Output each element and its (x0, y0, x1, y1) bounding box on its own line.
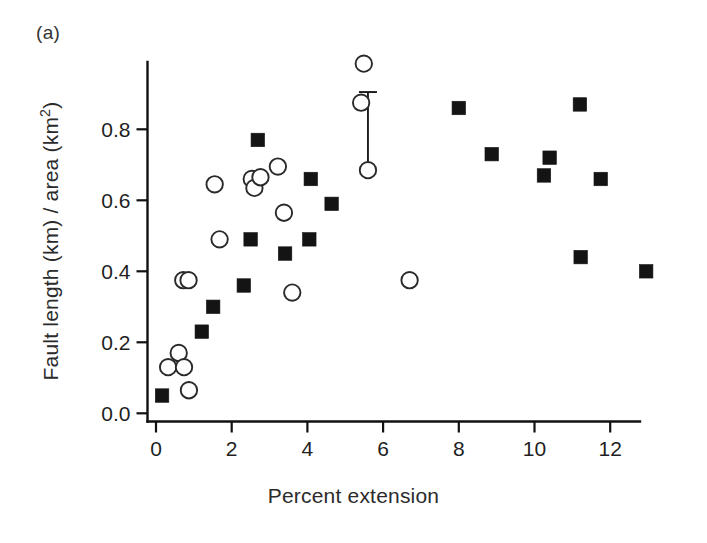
x-tick-label: 4 (302, 437, 314, 460)
data-point-square (543, 151, 557, 165)
data-point-circle (270, 158, 286, 174)
data-point-square (155, 389, 169, 403)
y-axis-title-main: Fault length (km) / area (km (39, 117, 62, 381)
x-tick-label: 12 (599, 437, 622, 460)
data-point-square (639, 265, 653, 279)
data-point-square (303, 233, 317, 247)
data-point-square (325, 197, 339, 211)
data-point-square (573, 98, 587, 112)
y-axis-title-superscript: 2 (37, 109, 53, 117)
figure-panel-a: (a) 0.00.20.40.60.8024681012 Percent ext… (0, 0, 707, 543)
data-point-square (452, 101, 466, 115)
data-point-circle (353, 94, 369, 110)
data-point-circle (356, 55, 372, 71)
x-tick-label: 8 (453, 437, 465, 460)
y-axis-title-tail: ) (39, 102, 62, 109)
x-tick-label: 10 (523, 437, 546, 460)
data-point-square (244, 233, 258, 247)
data-point-circle (180, 272, 196, 288)
y-tick-label: 0.4 (101, 260, 131, 283)
y-tick-label: 0.6 (101, 189, 130, 212)
y-tick-label: 0.2 (101, 331, 130, 354)
x-tick-label: 6 (377, 437, 389, 460)
scatter-plot: 0.00.20.40.60.8024681012 (0, 0, 707, 543)
data-point-square (485, 147, 499, 161)
y-axis-title: Fault length (km) / area (km2) (37, 41, 63, 441)
data-point-circle (401, 272, 417, 288)
data-point-square (574, 250, 588, 264)
data-point-square (537, 169, 551, 183)
y-tick-label: 0.0 (101, 402, 130, 425)
x-tick-label: 0 (150, 437, 162, 460)
data-point-circle (211, 231, 227, 247)
data-point-square (594, 172, 608, 186)
data-point-circle (181, 382, 197, 398)
data-point-circle (252, 169, 268, 185)
data-point-circle (160, 359, 176, 375)
data-point-square (195, 325, 209, 339)
x-tick-label: 2 (226, 437, 238, 460)
y-tick-label: 0.8 (101, 118, 130, 141)
data-point-square (278, 247, 292, 260)
data-point-square (237, 279, 251, 293)
x-axis-title: Percent extension (0, 484, 707, 508)
data-point-circle (176, 359, 192, 375)
data-point-circle (206, 176, 222, 192)
data-point-square (304, 172, 318, 186)
data-point-square (251, 133, 265, 147)
data-point-circle (284, 284, 300, 300)
data-point-square (206, 300, 220, 314)
data-point-circle (276, 205, 292, 221)
data-point-circle (360, 162, 376, 178)
